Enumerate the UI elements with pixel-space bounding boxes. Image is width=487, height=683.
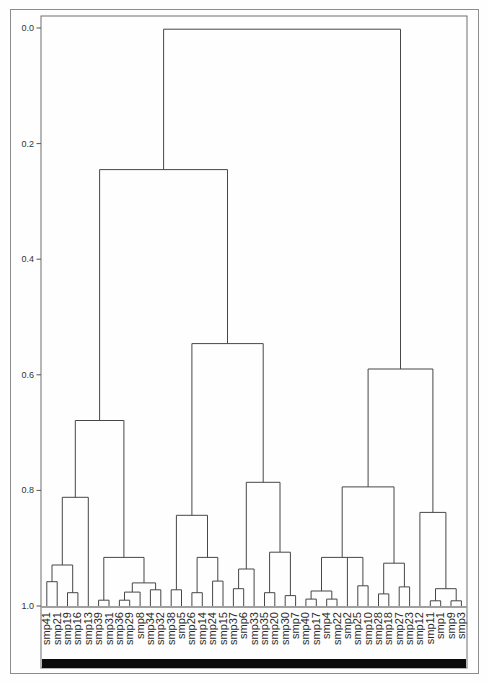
svg-text:0.2: 0.2 <box>21 139 34 149</box>
svg-text:smp3: smp3 <box>455 612 467 639</box>
svg-text:0.6: 0.6 <box>21 370 34 380</box>
tree-lines <box>47 29 462 606</box>
y-axis-tick-labels: 0.00.20.40.60.81.0 <box>21 23 34 611</box>
svg-text:1.0: 1.0 <box>21 601 34 611</box>
cluster-color-bar <box>42 659 466 668</box>
y-axis-ticks <box>37 28 42 606</box>
svg-text:0.4: 0.4 <box>21 254 34 264</box>
dendrogram-canvas: 0.00.20.40.60.81.0smp41smp21smp19smp16sm… <box>0 0 487 683</box>
leaf-labels: smp41smp21smp19smp16smp13smp39smp31smp36… <box>40 612 467 645</box>
dendrogram-figure: 0.00.20.40.60.81.0smp41smp21smp19smp16sm… <box>0 0 487 683</box>
svg-text:0.0: 0.0 <box>21 23 34 33</box>
outer-border <box>11 10 479 674</box>
svg-text:0.8: 0.8 <box>21 485 34 495</box>
